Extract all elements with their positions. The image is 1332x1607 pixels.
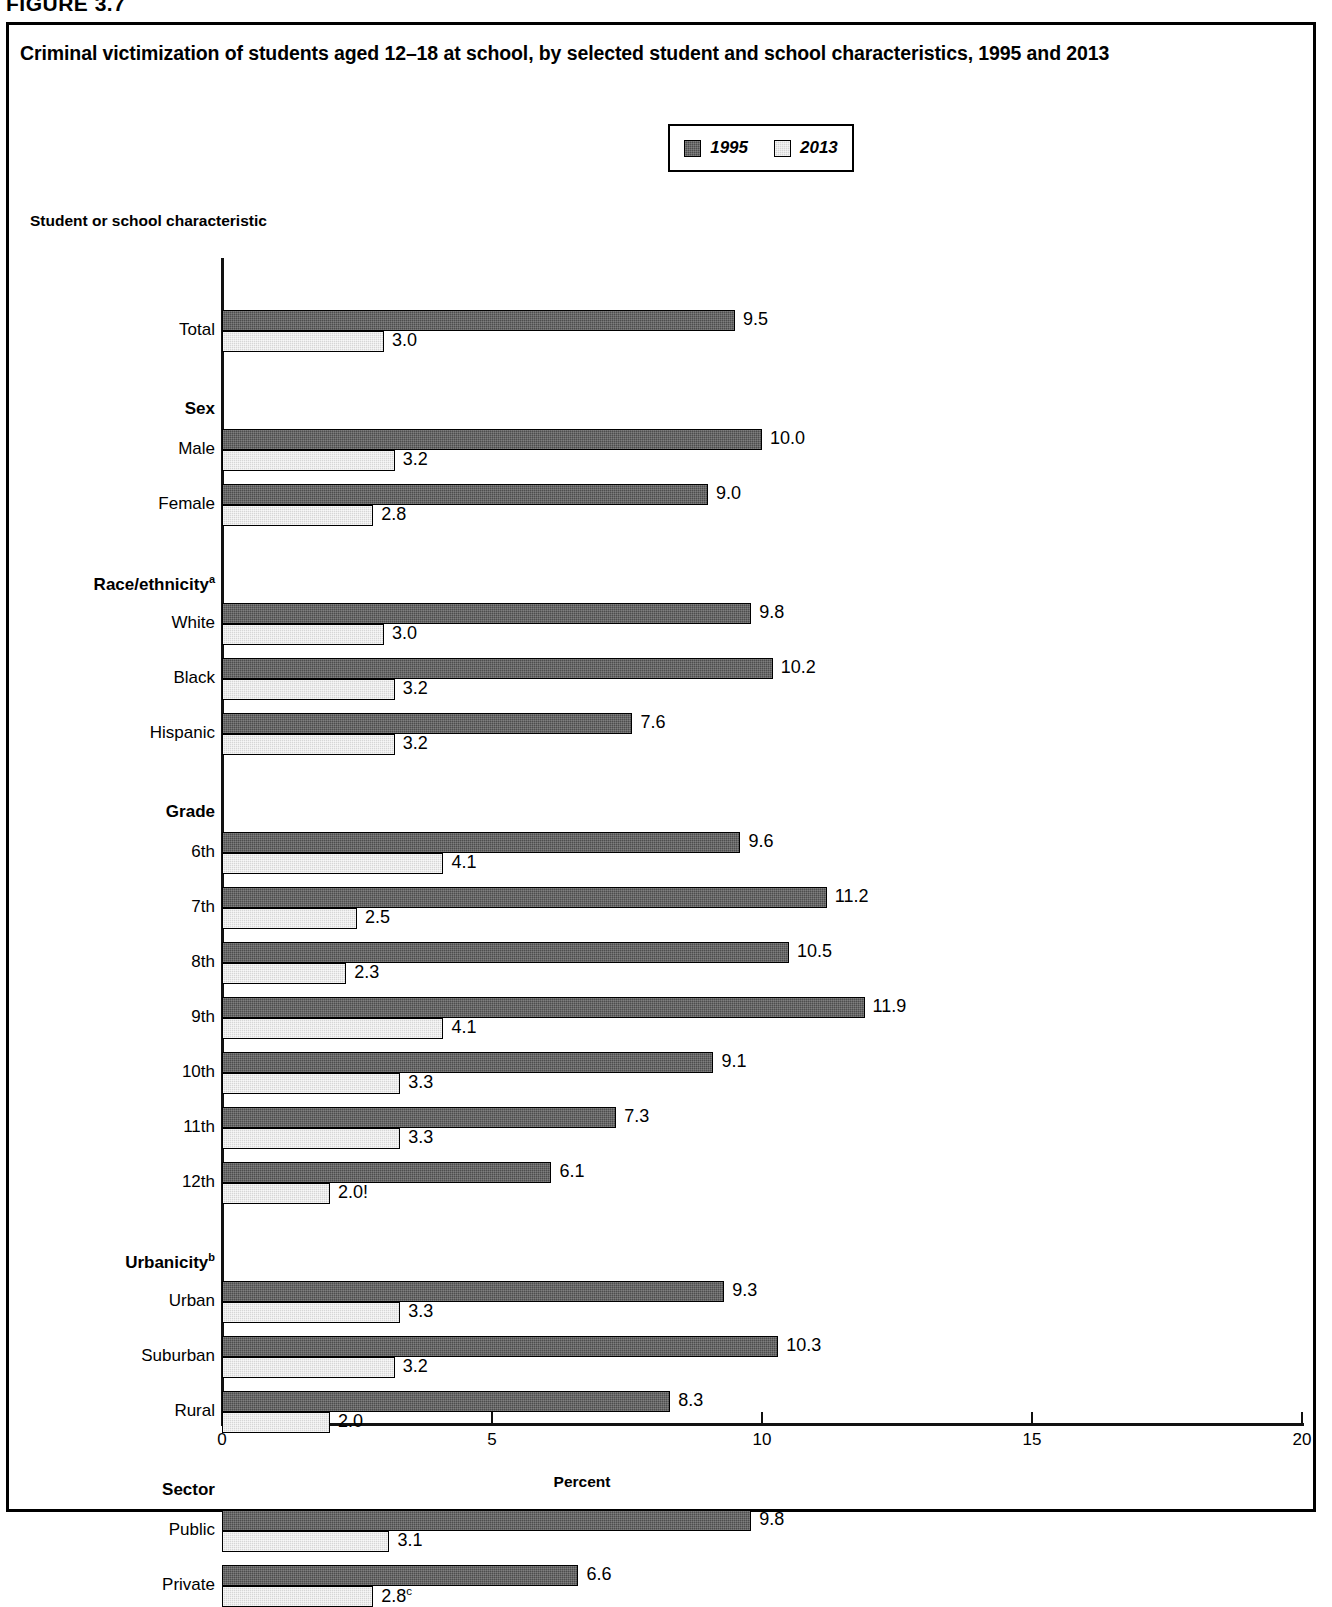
bar-value-1995: 9.6	[748, 831, 773, 852]
bar-1995	[222, 1162, 551, 1183]
bar-value-1995: 8.3	[678, 1390, 703, 1411]
bar-value-1995: 11.9	[873, 996, 907, 1017]
bar-1995	[222, 603, 751, 624]
bar-value-1995: 9.0	[716, 483, 741, 504]
bar-2013	[222, 1357, 395, 1378]
bar-value-1995: 7.6	[640, 712, 665, 733]
bar-value-2013: 4.1	[451, 1017, 476, 1038]
bar-2013	[222, 963, 346, 984]
x-tick-label: 5	[462, 1430, 522, 1450]
bar-value-2013: 3.2	[403, 449, 428, 470]
bar-value-2013: 3.3	[408, 1072, 433, 1093]
bar-1995	[222, 1052, 713, 1073]
section-heading: Race/ethnicitya	[0, 573, 215, 595]
bar-2013	[222, 1183, 330, 1204]
bar-2013	[222, 1412, 330, 1433]
bar-value-1995: 10.2	[781, 657, 816, 678]
category-label: 8th	[0, 952, 215, 972]
x-tick-label: 20	[1272, 1430, 1332, 1450]
category-label: White	[0, 613, 215, 633]
category-label: Private	[0, 1575, 215, 1595]
bar-2013	[222, 1302, 400, 1323]
bar-value-2013: 2.8c	[381, 1585, 412, 1607]
section-heading: Sex	[0, 399, 215, 419]
bar-value-2013: 2.3	[354, 962, 379, 983]
bar-value-2013: 4.1	[451, 852, 476, 873]
x-tick	[1031, 1412, 1033, 1424]
category-label: Suburban	[0, 1346, 215, 1366]
bar-value-2013: 2.5	[365, 907, 390, 928]
x-tick-label: 0	[192, 1430, 252, 1450]
bar-1995	[222, 997, 865, 1018]
category-label: Female	[0, 494, 215, 514]
category-label: Hispanic	[0, 723, 215, 743]
category-label: 7th	[0, 897, 215, 917]
bar-2013	[222, 1586, 373, 1607]
bar-value-2013: 3.0	[392, 330, 417, 351]
category-label: 12th	[0, 1172, 215, 1192]
bar-value-2013: 3.3	[408, 1301, 433, 1322]
bar-1995	[222, 484, 708, 505]
bar-value-1995: 10.5	[797, 941, 832, 962]
bar-1995	[222, 310, 735, 331]
category-label: 6th	[0, 842, 215, 862]
bar-value-1995: 9.8	[759, 1509, 784, 1530]
bar-2013	[222, 1531, 389, 1552]
bar-value-2013: 3.2	[403, 678, 428, 699]
x-tick	[491, 1412, 493, 1424]
bar-value-1995: 7.3	[624, 1106, 649, 1127]
bar-value-1995: 10.3	[786, 1335, 821, 1356]
bar-value-2013: 3.2	[403, 1356, 428, 1377]
category-label: Public	[0, 1520, 215, 1540]
bar-1995	[222, 1107, 616, 1128]
bar-1995	[222, 429, 762, 450]
category-label: 9th	[0, 1007, 215, 1027]
bar-2013	[222, 505, 373, 526]
bar-value-2013: 3.3	[408, 1127, 433, 1148]
bar-value-1995: 10.0	[770, 428, 805, 449]
bar-1995	[222, 658, 773, 679]
category-label: Black	[0, 668, 215, 688]
bar-1995	[222, 1336, 778, 1357]
section-heading: Sector	[0, 1480, 215, 1500]
bar-1995	[222, 713, 632, 734]
bar-value-2013: 3.0	[392, 623, 417, 644]
bar-2013	[222, 624, 384, 645]
section-heading: Grade	[0, 802, 215, 822]
section-heading: Urbanicityb	[0, 1251, 215, 1273]
bar-1995	[222, 1391, 670, 1412]
bar-value-1995: 9.1	[721, 1051, 746, 1072]
bar-value-2013: 2.0!	[338, 1182, 368, 1203]
bar-2013	[222, 853, 443, 874]
bar-2013	[222, 734, 395, 755]
bar-value-2013: 2.0	[338, 1411, 363, 1432]
bar-1995	[222, 1510, 751, 1531]
bar-1995	[222, 942, 789, 963]
bar-value-2013: 2.8	[381, 504, 406, 525]
x-axis-label-text: Percent	[554, 1473, 611, 1490]
x-tick	[1301, 1412, 1303, 1424]
category-label: Rural	[0, 1401, 215, 1421]
bar-value-1995: 6.1	[559, 1161, 584, 1182]
bar-value-2013: 3.2	[403, 733, 428, 754]
bar-1995	[222, 1565, 578, 1586]
bar-2013	[222, 679, 395, 700]
x-tick	[761, 1412, 763, 1424]
bar-value-1995: 9.8	[759, 602, 784, 623]
bar-value-1995: 11.2	[835, 886, 869, 907]
category-label: 10th	[0, 1062, 215, 1082]
category-label: Total	[0, 320, 215, 340]
bar-value-1995: 6.6	[586, 1564, 611, 1585]
bar-1995	[222, 887, 827, 908]
bar-2013	[222, 1073, 400, 1094]
category-label: Urban	[0, 1291, 215, 1311]
bar-value-2013: 3.1	[397, 1530, 422, 1551]
bar-2013	[222, 1128, 400, 1149]
category-label: 11th	[0, 1117, 215, 1137]
bar-1995	[222, 1281, 724, 1302]
bar-2013	[222, 450, 395, 471]
bar-value-1995: 9.5	[743, 309, 768, 330]
x-tick-label: 10	[732, 1430, 792, 1450]
bar-2013	[222, 908, 357, 929]
